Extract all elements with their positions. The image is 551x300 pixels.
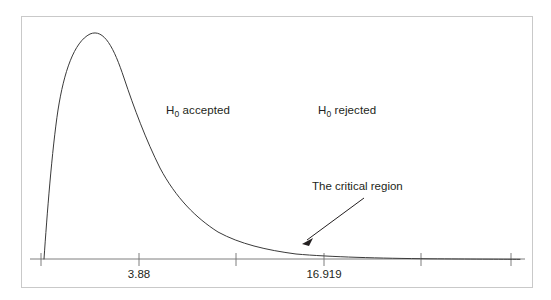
h0-rejected-suffix: rejected: [331, 104, 376, 116]
x-tick-label-16-919: 16.919: [294, 269, 354, 281]
x-tick-label-3-88: 3.88: [109, 269, 169, 281]
h0-rejected-label: H0 rejected: [318, 105, 376, 119]
arrow-shaft: [307, 198, 364, 240]
h0-accepted-label: H0 accepted: [166, 105, 230, 119]
density-curve: [44, 33, 520, 259]
critical-region-arrow: [302, 198, 364, 246]
figure-root: H0 accepted H0 rejected The critical reg…: [0, 0, 551, 300]
critical-region-label: The critical region: [312, 181, 403, 193]
h0-accepted-suffix: accepted: [179, 104, 230, 116]
x-axis-ticks: [41, 253, 511, 266]
chi-square-plot: [0, 0, 551, 300]
